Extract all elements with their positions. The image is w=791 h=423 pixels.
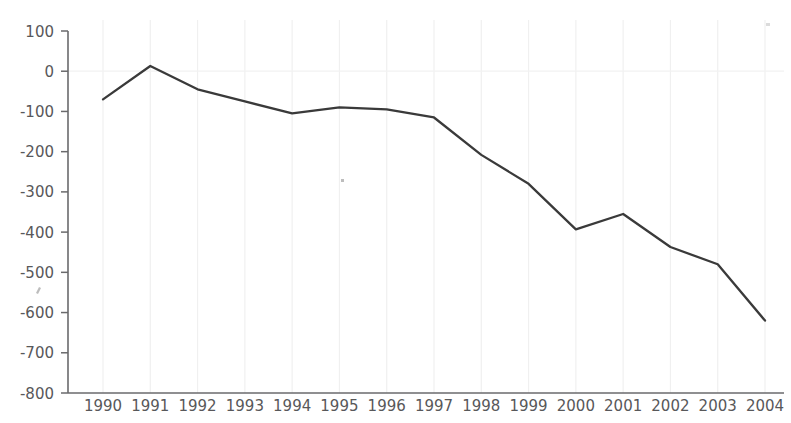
x-tick-label-1992: 1992	[178, 397, 216, 415]
x-tick-label-1990: 1990	[84, 397, 122, 415]
speck-artifact	[766, 23, 770, 26]
speck-artifact	[341, 179, 344, 182]
x-tick-label-1995: 1995	[320, 397, 358, 415]
y-tick-label: -100	[20, 103, 54, 121]
x-tick-label-1993: 1993	[226, 397, 264, 415]
x-tick-label-1999: 1999	[509, 397, 547, 415]
y-tick-label: 0	[44, 63, 54, 81]
x-tick-label-2002: 2002	[651, 397, 689, 415]
y-tick-label: -200	[20, 143, 54, 161]
y-tick-label: -300	[20, 183, 54, 201]
x-tick-label-2003: 2003	[699, 397, 737, 415]
x-tick-label-1996: 1996	[368, 397, 406, 415]
x-tick-label-1994: 1994	[273, 397, 311, 415]
x-tick-label-2004: 2004	[746, 397, 784, 415]
chart-background	[0, 0, 791, 423]
y-tick-label: -700	[20, 344, 54, 362]
x-tick-label-1991: 1991	[131, 397, 169, 415]
x-tick-label-2000: 2000	[557, 397, 595, 415]
x-tick-label-2001: 2001	[604, 397, 642, 415]
x-tick-label-1997: 1997	[415, 397, 453, 415]
y-tick-label: -800	[20, 385, 54, 403]
y-tick-label: -600	[20, 304, 54, 322]
x-axis-tick-labels-group: 1990199119921993199419951996199719981999…	[84, 397, 784, 415]
chart-canvas: 1000-100-200-300-400-500-600-700-800 199…	[0, 0, 791, 423]
y-tick-label: -500	[20, 264, 54, 282]
y-tick-label: 100	[25, 23, 54, 41]
line-chart-figure: 1000-100-200-300-400-500-600-700-800 199…	[0, 0, 791, 423]
y-tick-label: -400	[20, 224, 54, 242]
x-tick-label-1998: 1998	[462, 397, 500, 415]
